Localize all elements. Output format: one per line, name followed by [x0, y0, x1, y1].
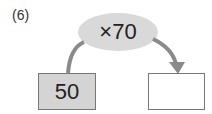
answer-box[interactable]	[148, 73, 205, 110]
operation-label: ×70	[78, 13, 158, 51]
problem-number: (6)	[12, 7, 29, 23]
input-box: 50	[38, 73, 96, 110]
